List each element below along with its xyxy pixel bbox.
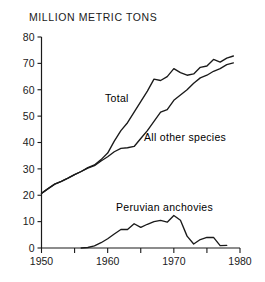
y-tick-label: 80 xyxy=(23,31,35,43)
y-tick-label: 10 xyxy=(23,215,35,227)
x-axis: 1950196019701980 xyxy=(30,248,252,267)
x-tick-label: 1960 xyxy=(96,255,120,267)
chart-root: MILLION METRIC TONS 01020304050607080 19… xyxy=(0,0,265,282)
y-tick-label: 20 xyxy=(23,189,35,201)
y-tick-label: 40 xyxy=(23,136,35,148)
series-line-all-other-species xyxy=(42,63,234,194)
y-tick-label: 60 xyxy=(23,84,35,96)
y-tick-label: 0 xyxy=(29,242,35,254)
x-tick-label: 1950 xyxy=(30,255,54,267)
series-label-peruvian-anchovies: Peruvian anchovies xyxy=(116,201,213,213)
y-tick-label: 30 xyxy=(23,163,35,175)
y-tick-label: 70 xyxy=(23,57,35,69)
x-tick-label: 1980 xyxy=(228,255,252,267)
y-tick-label: 50 xyxy=(23,110,35,122)
series-label-total: Total xyxy=(105,92,129,104)
series-paths xyxy=(42,56,234,248)
series-label-all-other-species: All other species xyxy=(144,131,226,143)
y-axis: 01020304050607080 xyxy=(23,31,42,254)
series-line-peruvian-anchovies xyxy=(81,216,227,248)
x-tick-label: 1970 xyxy=(162,255,186,267)
